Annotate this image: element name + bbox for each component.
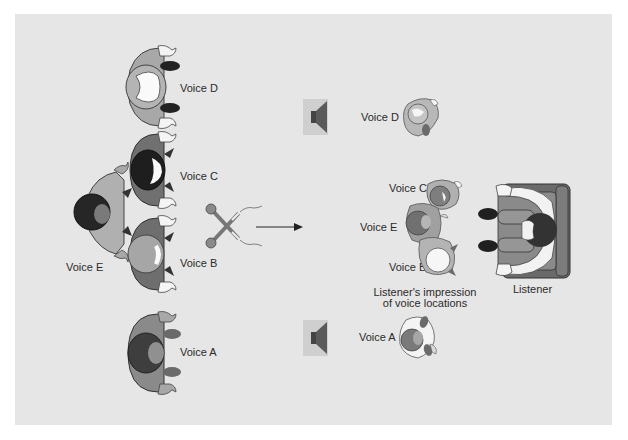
singer-a-figure [122,310,186,396]
crossed-microphones-icon [202,200,262,252]
phantom-e-label: Voice E [360,222,397,233]
singer-b-figure [124,212,184,296]
singer-b-label: Voice B [180,258,217,269]
singer-a-label: Voice A [180,347,217,358]
singer-c-label: Voice C [180,171,218,182]
phantom-d-label: Voice D [361,112,399,123]
singer-e-label: Voice E [66,262,103,273]
phantom-a-figure [396,314,440,362]
singer-d-label: Voice D [180,83,218,94]
phantom-voice-cluster-figure [400,178,466,282]
loudspeaker-top-icon [303,99,328,135]
listener-label: Listener [513,284,552,295]
loudspeaker-bottom-icon [303,320,328,356]
listener-figure [476,182,570,280]
phantom-d-figure [398,96,442,140]
phantom-a-label: Voice A [359,332,396,343]
impression-caption-line2: of voice locations [372,298,478,309]
arrow-right-icon [256,222,304,232]
